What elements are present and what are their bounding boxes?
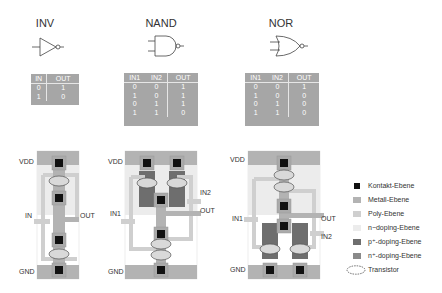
transistor-icon [167,178,187,188]
p-plus-doping-swatch-icon [353,239,361,245]
table-header: OUT [47,74,79,84]
legend-label: Poly-Ebene [368,209,404,219]
table-cell: 1 [168,100,198,109]
table-row: 1 0 0 [245,92,319,101]
transistor-icon [49,249,69,259]
table-row: 1 0 [31,93,79,102]
transistor-icon [260,244,280,254]
table-cell: 1 [145,100,167,109]
table-row: 1 1 0 [245,109,319,118]
inv-out-label: OUT [80,212,95,219]
table-cell: 1 [266,100,288,109]
table-header: IN2 [145,73,167,83]
table-row: 0 1 0 [245,100,319,109]
table-cell: 0 [266,92,288,101]
table-cell: 1 [245,92,266,101]
table-cell: 1 [47,84,79,93]
table-cell: 0 [168,109,198,118]
inv-cmos-layout [37,151,79,279]
table-cell: 1 [168,83,198,92]
nor-gate-symbol-icon [268,34,310,58]
table-row: 0 1 1 [124,100,198,109]
gate-title-nand: NAND [136,17,186,29]
table-cell: 0 [145,92,167,101]
nand-cmos-layout [125,151,197,279]
nand-in1-label: IN1 [110,210,121,217]
transistor-icon [274,170,294,180]
inv-in-label: IN [25,212,32,219]
table-cell: 0 [31,84,47,93]
table-cell: 1 [245,109,266,118]
legend-label: Transistor [368,265,399,275]
gate-title-nor: NOR [256,17,306,29]
legend-label: p⁺-doping-Ebene [368,237,422,247]
table-cell: 0 [289,100,319,109]
poly-swatch-icon [353,211,361,217]
inv-gnd-label: GND [19,268,35,275]
nand-out-label: OUT [200,207,215,214]
truth-table-nand: IN1 IN2 OUT 0 0 1 1 0 1 0 1 1 1 1 0 [124,73,198,126]
table-header: IN1 [124,73,145,83]
transistor-icon [151,250,171,260]
nor-out-label: OUT [321,215,336,222]
table-cell: 0 [289,109,319,118]
table-header: IN1 [245,73,266,83]
table-cell: 0 [245,100,266,109]
nor-gnd-label: GND [230,266,246,273]
table-row: 0 1 [31,84,79,93]
table-cell: 1 [289,83,319,92]
gate-title-inv: INV [25,17,65,29]
legend-label: Kontakt-Ebene [368,181,414,191]
legend-label: n−doping-Ebene [368,223,420,233]
table-header: OUT [168,73,198,83]
nand-gate-symbol-icon [146,34,186,58]
table-header: OUT [289,73,319,83]
nor-cmos-layout [248,151,320,279]
table-cell: 0 [289,92,319,101]
legend-label: Metall-Ebene [368,195,409,205]
table-cell: 0 [145,83,167,92]
truth-table-nor: IN1 IN2 OUT 0 0 1 1 0 0 0 1 0 1 1 0 [245,73,319,126]
table-cell: 1 [266,109,288,118]
table-cell: 0 [266,83,288,92]
table-row: 0 0 1 [245,83,319,92]
transistor-icon [137,178,157,188]
table-cell: 0 [245,83,266,92]
nand-gnd-label: GND [108,268,124,275]
transistor-icon [290,244,310,254]
transistor-icon [49,176,69,186]
legend-label: n⁺-doping-Ebene [368,251,422,261]
nand-in2-label: IN2 [200,189,211,196]
truth-table-inv: IN OUT 0 1 1 0 [31,74,79,105]
table-cell: 1 [124,92,145,101]
n-plus-doping-swatch-icon [353,253,361,259]
table-row: 1 0 1 [124,92,198,101]
nor-vdd-label: VDD [230,156,245,163]
transistor-icon [151,239,171,249]
transistor-legend-icon [346,265,366,275]
nor-in2-label: IN2 [321,233,332,240]
table-cell: 1 [31,93,47,102]
metal-swatch-icon [353,197,361,203]
inverter-symbol-icon [30,36,66,58]
n-doping-swatch-icon [353,225,361,231]
table-row: 1 1 0 [124,109,198,118]
table-cell: 0 [124,100,145,109]
nor-in1-label: IN1 [232,215,243,222]
table-cell: 0 [124,83,145,92]
table-cell: 1 [124,109,145,118]
table-row: 0 0 1 [124,83,198,92]
table-header: IN2 [266,73,288,83]
table-cell: 1 [145,109,167,118]
table-header: IN [31,74,47,84]
transistor-icon [274,182,294,192]
inv-vdd-label: VDD [19,158,34,165]
table-cell: 0 [47,93,79,102]
nand-vdd-label: VDD [108,158,123,165]
contact-swatch-icon [354,183,360,189]
table-cell: 1 [168,92,198,101]
